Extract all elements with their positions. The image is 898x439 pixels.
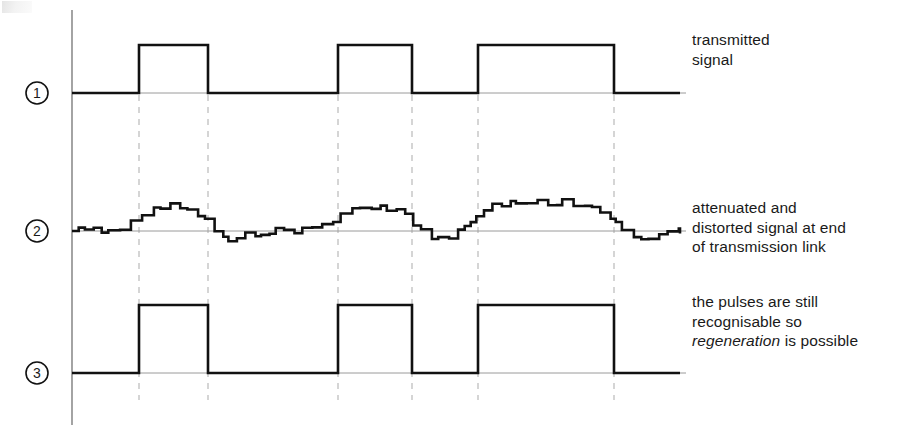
label-line: the pulses are still: [692, 292, 858, 312]
label-line: signal: [692, 50, 770, 70]
waveform-transmitted-signal: [72, 45, 680, 93]
guide-lines-group: [139, 95, 614, 400]
emphasised-term: regeneration: [692, 332, 780, 349]
trace-label-attenuated-signal: attenuated anddistorted signal at endof …: [692, 198, 846, 257]
label-line: recognisable so: [692, 312, 858, 332]
label-line: distorted signal at end: [692, 218, 846, 238]
marker-number-3: 3: [33, 365, 41, 381]
label-line: of transmission link: [692, 237, 846, 257]
trace-label-regenerated-signal: the pulses are stillrecognisable soregen…: [692, 292, 858, 351]
trace-label-transmitted-signal: transmittedsignal: [692, 30, 770, 69]
label-line: attenuated and: [692, 198, 846, 218]
trace-markers-group: 123: [26, 82, 48, 384]
label-line: regeneration is possible: [692, 331, 858, 351]
waveform-attenuated-distorted-signal: [72, 199, 680, 241]
marker-number-2: 2: [33, 223, 41, 239]
reference-lines-group: [72, 93, 686, 373]
waveform-regenerated-signal: [72, 305, 680, 373]
waveforms-group: [72, 45, 680, 373]
label-line: transmitted: [692, 30, 770, 50]
marker-number-1: 1: [33, 85, 41, 101]
